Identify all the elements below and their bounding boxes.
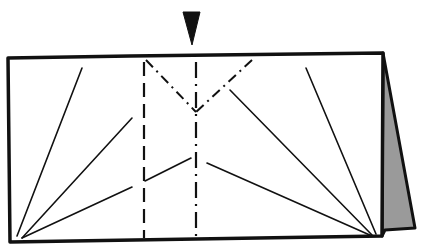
back-flap: [382, 53, 415, 236]
origami-diagram: [0, 0, 423, 250]
push-arrow-icon: [183, 12, 200, 45]
diagram-svg: [0, 0, 423, 250]
